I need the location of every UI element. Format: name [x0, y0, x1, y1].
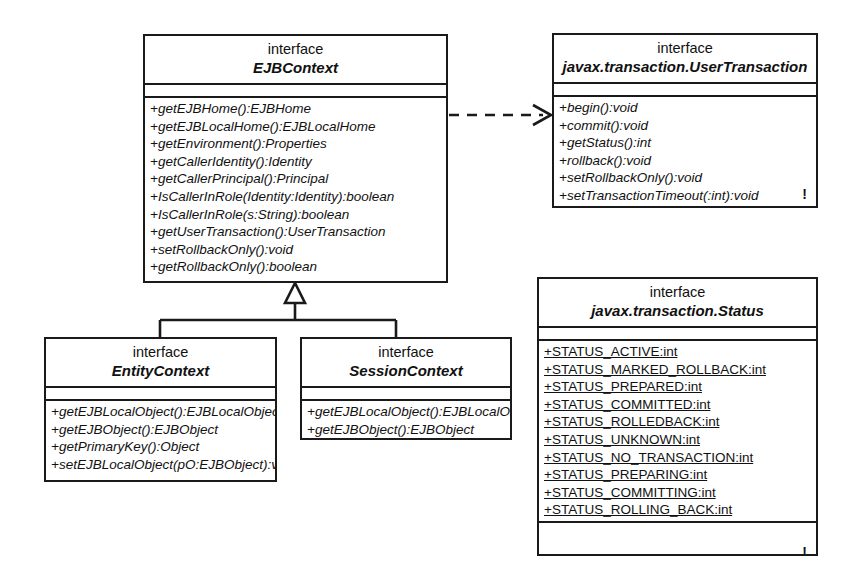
class-name-label: SessionContext [306, 361, 506, 380]
class-name-label: javax.transaction.UserTransaction [558, 57, 812, 76]
class-box-ejbcontext[interactable]: interface EJBContext +getEJBHome():EJBHo… [143, 34, 448, 283]
attributes-compartment-entitycontext [46, 388, 275, 401]
operation-row: +rollback():void [554, 152, 816, 170]
operation-row: +getCallerIdentity():Identity [145, 153, 446, 171]
operation-row: +setTransactionTimeout(:int):void [554, 187, 816, 205]
class-box-sessioncontext[interactable]: interface SessionContext +getEJBLocalObj… [300, 337, 512, 440]
operation-row: +getCallerPrincipal():Principal [145, 170, 446, 188]
operation-row: +setRollbackOnly():void [554, 169, 816, 187]
attribute-row: +STATUS_ROLLING_BACK:int [539, 501, 816, 519]
operation-row: +getEJBHome():EJBHome [145, 100, 446, 118]
operation-row: +getEJBLocalObject():EJBLocalObject [302, 403, 510, 421]
operation-row: +getUserTransaction():UserTransaction [145, 223, 446, 241]
generalization-bus [160, 283, 396, 337]
class-name-compartment-ejbcontext: interface EJBContext [145, 36, 446, 85]
operation-row: +IsCallerInRole(s:String):boolean [145, 206, 446, 224]
class-box-usertransaction[interactable]: interface javax.transaction.UserTransact… [552, 33, 818, 208]
operation-row: +getEJBObject():EJBObject [46, 421, 275, 439]
stereotype-label: interface [149, 41, 442, 58]
class-name-compartment-status: interface javax.transaction.Status [539, 279, 816, 328]
operation-row: +IsCallerInRole(Identity:Identity):boole… [145, 188, 446, 206]
operation-row: +getEJBObject():EJBObject [302, 421, 510, 439]
class-name-compartment-entitycontext: interface EntityContext [46, 339, 275, 388]
operation-row: +setRollbackOnly():void [145, 241, 446, 259]
attributes-compartment-sessioncontext [302, 388, 510, 401]
operation-row: +getStatus():int [554, 134, 816, 152]
overflow-marker-icon: ! [802, 545, 807, 556]
operation-row: +getEnvironment():Properties [145, 135, 446, 153]
spacer-compartment-status [539, 328, 816, 341]
stereotype-label: interface [543, 284, 812, 301]
attribute-row: +STATUS_NO_TRANSACTION:int [539, 449, 816, 467]
attribute-row: +STATUS_MARKED_ROLLBACK:int [539, 361, 816, 379]
operation-row: +getEJBLocalHome():EJBLocalHome [145, 118, 446, 136]
class-box-entitycontext[interactable]: interface EntityContext +getEJBLocalObje… [44, 337, 277, 482]
operations-compartment-status: ! [539, 523, 816, 556]
attributes-compartment-status: +STATUS_ACTIVE:int +STATUS_MARKED_ROLLBA… [539, 341, 816, 523]
stereotype-label: interface [306, 344, 506, 361]
operation-row: +getEJBLocalObject():EJBLocalObject [46, 403, 275, 421]
diagram-canvas: UserTransaction --> interface EJBContext… [0, 0, 851, 586]
operation-row: +commit():void [554, 117, 816, 135]
operations-compartment-entitycontext: +getEJBLocalObject():EJBLocalObject +get… [46, 401, 275, 475]
dependency-ejbcontext-usertransaction [449, 105, 551, 125]
operations-compartment-usertransaction: +begin():void +commit():void +getStatus(… [554, 97, 816, 207]
attribute-row: +STATUS_COMMITTING:int [539, 484, 816, 502]
stereotype-label: interface [50, 344, 271, 361]
operations-compartment-sessioncontext: +getEJBLocalObject():EJBLocalObject +get… [302, 401, 510, 440]
class-name-compartment-usertransaction: interface javax.transaction.UserTransact… [554, 35, 816, 84]
operation-row: +begin():void [554, 99, 816, 117]
attributes-compartment-usertransaction [554, 84, 816, 97]
operation-row: +setEJBLocalObject(pO:EJBObject):void [46, 456, 275, 474]
overflow-marker-icon: ! [802, 186, 807, 204]
class-name-label: EntityContext [50, 361, 271, 380]
attribute-row: +STATUS_PREPARED:int [539, 378, 816, 396]
attribute-row: +STATUS_PREPARING:int [539, 466, 816, 484]
operation-row: +getPrimaryKey():Object [46, 438, 275, 456]
class-name-label: EJBContext [149, 58, 442, 77]
operation-row: +getRollbackOnly():boolean [145, 258, 446, 276]
attribute-row: +STATUS_UNKNOWN:int [539, 431, 816, 449]
attribute-row: +STATUS_COMMITTED:int [539, 396, 816, 414]
class-name-compartment-sessioncontext: interface SessionContext [302, 339, 510, 388]
attributes-compartment-ejbcontext [145, 85, 446, 98]
operations-compartment-ejbcontext: +getEJBHome():EJBHome +getEJBLocalHome()… [145, 98, 446, 278]
attribute-row: +STATUS_ROLLEDBACK:int [539, 413, 816, 431]
class-box-status[interactable]: interface javax.transaction.Status +STAT… [537, 277, 818, 556]
class-name-label: javax.transaction.Status [543, 301, 812, 320]
attribute-row: +STATUS_ACTIVE:int [539, 343, 816, 361]
stereotype-label: interface [558, 40, 812, 57]
